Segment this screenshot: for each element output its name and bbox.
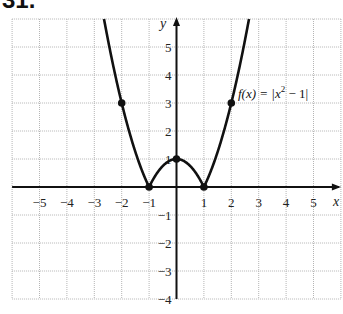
y-tick-label: 2 xyxy=(165,124,172,139)
x-tick-label: −2 xyxy=(115,195,129,210)
function-label-lhs: f(x) = |x xyxy=(238,86,281,101)
x-tick-label: 5 xyxy=(310,195,317,210)
y-axis-label: y xyxy=(158,16,167,31)
x-tick-label: 1 xyxy=(201,195,208,210)
function-label-rhs: − 1| xyxy=(285,86,308,101)
y-tick-label: −1 xyxy=(158,208,172,223)
y-tick-label: −4 xyxy=(158,292,172,307)
point-marker xyxy=(173,155,181,163)
function-graph: −5−4−3−2−11234554321−1−2−3−4 x y f(x) = … xyxy=(0,0,343,314)
x-tick-label: 4 xyxy=(283,195,290,210)
function-label: f(x) = |x2 − 1| xyxy=(238,84,308,101)
x-tick-label: −5 xyxy=(33,195,47,210)
x-axis-label: x xyxy=(332,194,340,209)
y-tick-label: −2 xyxy=(158,236,172,251)
y-tick-label: 5 xyxy=(165,40,172,55)
point-marker xyxy=(228,99,236,107)
point-marker xyxy=(200,183,208,191)
point-marker xyxy=(118,99,126,107)
y-tick-label: 4 xyxy=(165,68,172,83)
x-tick-label: −4 xyxy=(60,195,74,210)
y-tick-label: −3 xyxy=(158,264,172,279)
x-axis-arrow-icon xyxy=(332,184,341,191)
x-tick-label: −1 xyxy=(142,195,156,210)
y-axis-arrow-icon xyxy=(173,17,180,26)
x-tick-label: 2 xyxy=(228,195,235,210)
y-tick-label: 3 xyxy=(165,96,172,111)
x-tick-label: −3 xyxy=(87,195,101,210)
point-marker xyxy=(145,183,153,191)
tick-labels: −5−4−3−2−11234554321−1−2−3−4 xyxy=(33,40,317,307)
x-tick-label: 3 xyxy=(255,195,262,210)
